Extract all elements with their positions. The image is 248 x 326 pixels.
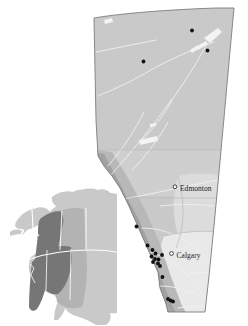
- sample-site-marker: [158, 264, 162, 268]
- city-label: Edmonton: [180, 184, 212, 193]
- map-canvas: EdmontonCalgary: [0, 0, 248, 326]
- sample-site-marker: [142, 60, 146, 64]
- sample-site-marker: [157, 258, 161, 262]
- sample-site-marker: [160, 253, 164, 257]
- inset-aleutians: [10, 230, 22, 236]
- sample-site-marker: [151, 260, 155, 264]
- sample-site-marker: [135, 225, 139, 229]
- sample-site-marker: [150, 255, 154, 259]
- map-figure: EdmontonCalgary: [0, 0, 248, 326]
- city-point-icon: [170, 252, 174, 256]
- sample-site-marker: [154, 252, 158, 256]
- sample-site-marker: [206, 49, 210, 53]
- city-point-icon: [173, 185, 177, 189]
- sample-site-marker: [171, 300, 175, 304]
- city-label: Calgary: [177, 251, 201, 260]
- sample-site-marker: [190, 29, 194, 33]
- sample-site-marker: [161, 275, 165, 279]
- sample-site-marker: [151, 248, 155, 252]
- sample-site-marker: [146, 244, 150, 248]
